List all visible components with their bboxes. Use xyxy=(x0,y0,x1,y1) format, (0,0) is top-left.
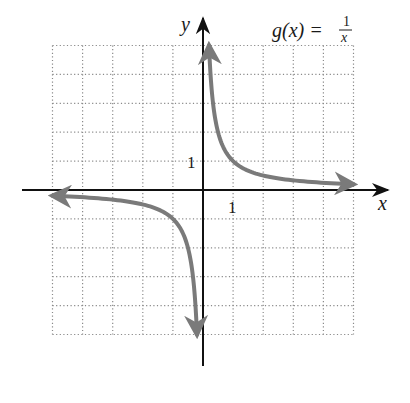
y-tick-label: 1 xyxy=(187,153,196,172)
x-tick-label: 1 xyxy=(228,198,237,217)
title-numerator: 1 xyxy=(343,14,350,29)
title-denominator: x xyxy=(340,30,348,45)
title-lhs-text: g(x) = xyxy=(272,19,323,42)
function-title: g(x) = 1 x xyxy=(272,14,352,45)
y-axis-label: y xyxy=(179,13,190,36)
curve-positive-branch xyxy=(209,46,353,185)
title-lhs: g(x) = xyxy=(272,19,323,42)
curve-negative-branch xyxy=(53,196,197,335)
reciprocal-function-graph: y x 1 1 g(x) = 1 x xyxy=(0,0,410,403)
x-axis-label: x xyxy=(377,192,387,214)
